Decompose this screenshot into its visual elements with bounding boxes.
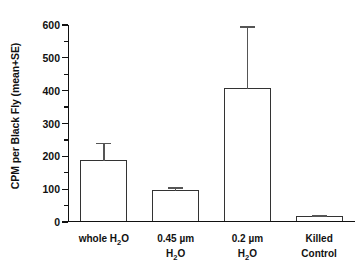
y-tick-minor <box>64 139 68 140</box>
y-tick-major <box>62 90 68 91</box>
x-category-label: 0.45 µmH2O <box>157 231 194 265</box>
error-bar-stem <box>103 144 104 161</box>
y-tick-major <box>62 189 68 190</box>
y-tick-minor <box>64 106 68 107</box>
y-tick-minor <box>64 172 68 173</box>
bar <box>80 160 127 221</box>
bar <box>224 88 271 221</box>
error-bar-cap <box>96 143 111 144</box>
error-bar-cap <box>240 26 255 27</box>
chart-figure: CPM per Black Fly (mean+SE) 010020030040… <box>0 0 364 266</box>
x-category-label: 0.2 µmH2O <box>232 231 263 265</box>
y-tick-major <box>62 221 68 222</box>
y-tick-minor <box>64 41 68 42</box>
bar <box>296 216 343 221</box>
error-bar-stem <box>247 27 248 89</box>
bar <box>152 190 199 221</box>
y-tick-major <box>62 156 68 157</box>
error-bar-cap <box>168 187 183 188</box>
y-tick-major <box>62 24 68 25</box>
y-tick-label: 200 <box>42 150 60 162</box>
y-tick-label: 0 <box>54 216 60 228</box>
y-tick-major <box>62 57 68 58</box>
error-bar-cap <box>312 215 327 216</box>
y-axis-line <box>68 25 69 222</box>
y-tick-minor <box>64 205 68 206</box>
y-axis-title: CPM per Black Fly (mean+SE) <box>6 10 24 222</box>
y-tick-label: 300 <box>42 118 60 130</box>
y-tick-label: 500 <box>42 52 60 64</box>
plot-area: 0100200300400500600 whole H2O0.45 µmH2O0… <box>68 25 355 222</box>
x-category-label: whole H2O <box>79 231 129 250</box>
y-tick-minor <box>64 74 68 75</box>
y-tick-major <box>62 123 68 124</box>
x-category-label: KilledControl <box>301 231 337 261</box>
y-tick-label: 400 <box>42 85 60 97</box>
y-tick-label: 100 <box>42 183 60 195</box>
y-tick-label: 600 <box>42 19 60 31</box>
